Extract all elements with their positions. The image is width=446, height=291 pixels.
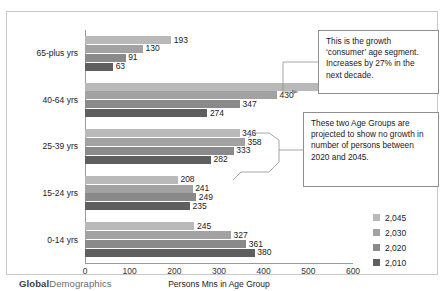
x-tick-label: 100 — [123, 266, 137, 276]
legend-label: 2,045 — [385, 213, 406, 223]
bar — [85, 129, 240, 137]
bar-value-label: 282 — [212, 155, 228, 164]
x-axis-title: Persons Mns in Age Group — [85, 279, 353, 289]
legend-item[interactable]: 2,045 — [373, 210, 406, 225]
callout-no-growth: These two Age Groups are projected to sh… — [303, 112, 439, 187]
bar-value-label: 245 — [196, 222, 212, 231]
category-label: 65-plus yrs — [36, 48, 78, 58]
bar-value-label: 193 — [173, 36, 189, 45]
legend-label: 2,010 — [385, 258, 406, 268]
logo-light: Demographics — [49, 278, 111, 289]
x-tick-label: 600 — [346, 266, 360, 276]
bar — [85, 240, 246, 248]
category-axis-line — [85, 263, 353, 264]
bar — [85, 176, 178, 184]
category-label: 0-14 yrs — [47, 235, 78, 245]
x-tick-label: 300 — [212, 266, 226, 276]
bar — [85, 109, 207, 117]
legend-item[interactable]: 2,030 — [373, 225, 406, 240]
bar-group: 65-plus yrs1931309163 — [85, 30, 353, 77]
bar-value-label: 430 — [279, 91, 295, 100]
bar — [85, 249, 255, 257]
bar — [85, 231, 231, 239]
global-demographics-logo: GlobalDemographics — [19, 278, 112, 289]
legend-label: 2,020 — [385, 243, 406, 253]
bar-value-label: 380 — [256, 248, 272, 257]
category-label: 15-24 yrs — [43, 188, 78, 198]
x-tick-label: 200 — [167, 266, 181, 276]
category-label: 25-39 yrs — [43, 141, 78, 151]
chart-frame: 0-14 yrs24532736138015-24 yrs20824124923… — [6, 11, 438, 275]
bar — [85, 202, 190, 210]
legend-swatch-icon — [373, 244, 380, 251]
bar-value-label: 347 — [241, 100, 257, 109]
bar-value-label: 63 — [115, 62, 126, 71]
bar-group: 0-14 yrs245327361380 — [85, 216, 353, 263]
x-tick-label: 500 — [301, 266, 315, 276]
legend-label: 2,030 — [385, 228, 406, 238]
chart-screenshot: 0-14 yrs24532736138015-24 yrs20824124923… — [0, 0, 446, 291]
legend: 2,0452,0302,0202,010 — [373, 210, 406, 270]
legend-swatch-icon — [373, 214, 380, 221]
x-tick-label: 0 — [83, 266, 88, 276]
bar — [85, 156, 211, 164]
bar — [85, 193, 196, 201]
x-tick-label: 400 — [257, 266, 271, 276]
legend-item[interactable]: 2,010 — [373, 255, 406, 270]
bar-value-label: 274 — [209, 109, 225, 118]
bar-value-label: 91 — [127, 53, 138, 62]
logo-bold: Global — [19, 278, 49, 289]
bar — [85, 138, 245, 146]
bar — [85, 222, 194, 230]
bar-value-label: 333 — [235, 146, 251, 155]
bar-value-label: 327 — [233, 231, 249, 240]
bar — [85, 185, 193, 193]
bar — [85, 63, 113, 71]
callout-growth-consumer: This is the growth ‘consumer’ age segmen… — [318, 30, 439, 94]
bar-value-label: 130 — [145, 44, 161, 53]
legend-swatch-icon — [373, 229, 380, 236]
legend-item[interactable]: 2,020 — [373, 240, 406, 255]
legend-swatch-icon — [373, 259, 380, 266]
bar — [85, 147, 234, 155]
bar-value-label: 235 — [191, 202, 207, 211]
category-label: 40-64 yrs — [43, 95, 78, 105]
bar-value-label: 208 — [179, 175, 195, 184]
